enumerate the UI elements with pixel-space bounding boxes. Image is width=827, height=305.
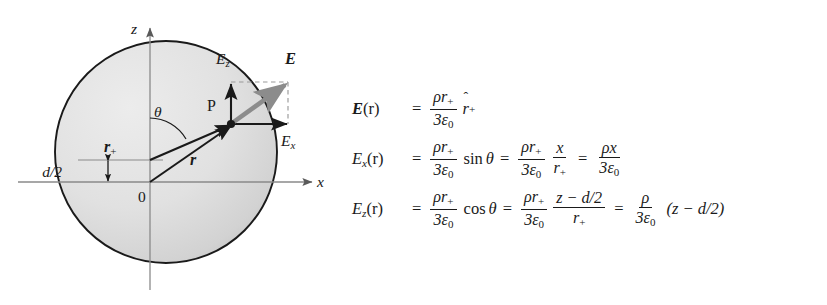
eq1-denominator-sub: 0	[448, 118, 454, 130]
eq2-fraction-3: x r+	[551, 139, 570, 179]
offset-label: d/2	[42, 163, 62, 180]
physics-figure: z x 0 d/2 r r+ θ Ez Ex E P	[0, 0, 827, 305]
eq3-numerator-1-sub: +	[447, 195, 453, 207]
eq3-lhs-symbol: E	[352, 199, 362, 218]
eq3-trig-function: cos	[464, 199, 486, 219]
eq1-fraction: ρr+ 3ε0	[430, 88, 456, 131]
eq3-equals-3: =	[614, 199, 623, 219]
eq2-fraction-2: ρr+ 3ε0	[518, 138, 544, 181]
eq2-trig-function: sin	[464, 149, 483, 169]
field-z-component-label: Ez	[215, 50, 230, 69]
eq3-final-denominator: 3ε	[635, 209, 649, 226]
vector-r-label: r	[190, 151, 197, 168]
origin-label: 0	[138, 188, 146, 205]
eq1-equals: =	[412, 99, 421, 119]
point-p-label: P	[207, 97, 216, 114]
eq2-ratio-numerator: x	[556, 139, 563, 156]
eq2-equals-1: =	[412, 149, 421, 169]
eq3-denominator-2: 3ε	[524, 211, 538, 228]
eq3-denominator-1-sub: 0	[448, 218, 454, 230]
equation-block: E(r) = ρr+ 3ε0 ˆr+ Ex(r) = ρr+	[352, 84, 822, 234]
eq2-numerator-1-sub: +	[447, 145, 453, 157]
eq3-final-denominator-sub: 0	[650, 216, 656, 228]
field-vector-equation: E(r) = ρr+ 3ε0 ˆr+	[352, 84, 822, 134]
field-x-component-equation: Ex(r) = ρr+ 3ε0 sinθ = ρr+ 3ε0	[352, 134, 822, 184]
eq3-trig-argument: θ	[489, 199, 497, 219]
eq1-numerator: ρr	[433, 88, 447, 105]
eq1-numerator-sub: +	[447, 95, 453, 107]
eq3-ratio-numerator: z − d/2	[556, 189, 602, 206]
eq2-denominator-1: 3ε	[433, 161, 447, 178]
eq2-numerator-2: ρr	[521, 138, 535, 155]
eq1-denominator: 3ε	[433, 111, 447, 128]
z-axis-label: z	[130, 20, 137, 37]
eq2-lhs-symbol: E	[352, 149, 362, 168]
eq3-final-numerator: ρ	[642, 189, 650, 206]
sphere-field-diagram: z x 0 d/2 r r+ θ Ez Ex E P	[0, 0, 340, 305]
x-axis-label: x	[316, 173, 324, 190]
eq3-lhs-arg: (r)	[366, 199, 382, 218]
eq3-fraction-2: ρr+ 3ε0	[521, 188, 547, 231]
eq3-equals-1: =	[412, 199, 421, 219]
eq2-trig-argument: θ	[486, 149, 494, 169]
eq2-equals-2: =	[500, 149, 509, 169]
eq3-ratio-denominator-sub: +	[579, 216, 585, 228]
eq3-denominator-2-sub: 0	[539, 218, 545, 230]
eq2-denominator-2: 3ε	[521, 161, 535, 178]
eq1-unit-vector: ˆr	[463, 99, 469, 119]
eq2-final-numerator: ρx	[602, 139, 617, 156]
point-p-marker	[227, 120, 235, 128]
eq2-final-denominator-sub: 0	[614, 166, 620, 178]
eq2-denominator-2-sub: 0	[536, 168, 542, 180]
field-z-component-equation: Ez(r) = ρr+ 3ε0 cosθ = ρr+ 3ε0	[352, 184, 822, 234]
eq3-numerator-2: ρr	[524, 188, 538, 205]
eq3-final-tail: (z − d/2)	[666, 199, 724, 219]
eq2-final-denominator: 3ε	[599, 159, 613, 176]
eq2-lhs-arg: (r)	[367, 149, 383, 168]
eq3-denominator-1: 3ε	[433, 211, 447, 228]
eq1-lhs-symbol: E	[352, 99, 363, 118]
theta-label: θ	[154, 103, 162, 120]
eq3-numerator-1: ρr	[433, 188, 447, 205]
eq2-fraction-final: ρx 3ε0	[596, 139, 622, 179]
eq3-fraction-1: ρr+ 3ε0	[430, 188, 456, 231]
eq1-lhs-arg: (r)	[363, 99, 379, 118]
eq2-numerator-2-sub: +	[535, 145, 541, 157]
eq2-numerator-1: ρr	[433, 138, 447, 155]
eq2-fraction-1: ρr+ 3ε0	[430, 138, 456, 181]
field-resultant-label: E	[284, 49, 296, 68]
eq2-ratio-denominator-sub: +	[560, 166, 566, 178]
eq3-numerator-2-sub: +	[538, 195, 544, 207]
eq2-equals-3: =	[578, 149, 587, 169]
field-x-component-label: Ex	[280, 132, 295, 151]
eq3-fraction-3: z − d/2 r+	[553, 189, 605, 229]
eq1-hat-accent: ˆ	[463, 90, 468, 106]
eq1-tail-sub: +	[469, 103, 475, 115]
eq2-denominator-1-sub: 0	[448, 168, 454, 180]
eq3-fraction-final: ρ 3ε0	[632, 189, 658, 229]
eq3-equals-2: =	[503, 199, 512, 219]
